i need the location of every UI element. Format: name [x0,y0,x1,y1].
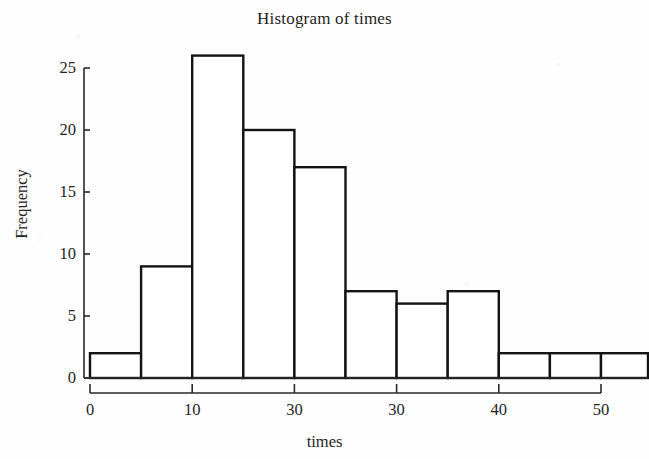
x-tick-label: 10 [162,400,222,420]
x-axis [84,378,648,393]
histogram-figure: Histogram of times Frequency times 05101… [0,0,649,459]
x-tick-label: 30 [264,400,324,420]
histogram-bar [141,266,192,378]
histogram-bar [243,130,294,378]
histogram-bar [550,353,601,378]
histogram-bar [448,291,499,378]
y-tick-label: 0 [26,368,76,388]
y-tick-label: 25 [26,58,76,78]
y-tick-label: 20 [26,120,76,140]
histogram-bar [294,167,345,378]
y-tick-label: 15 [26,182,76,202]
histogram-bar [192,56,243,378]
x-tick-label: 50 [571,400,631,420]
y-tick-label: 10 [26,244,76,264]
x-tick-label: 40 [469,400,529,420]
y-axis [84,68,90,378]
x-tick-label: 30 [367,400,427,420]
bars-group [90,56,648,378]
histogram-bar [499,353,550,378]
histogram-bar [90,353,141,378]
histogram-bar [601,353,648,378]
histogram-bar [346,291,397,378]
histogram-bar [397,304,448,378]
plot-area [0,0,649,459]
x-tick-label: 0 [60,400,120,420]
y-tick-label: 5 [26,306,76,326]
